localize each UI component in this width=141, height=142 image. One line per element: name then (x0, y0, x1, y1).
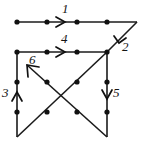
vertex-dot (44, 49, 49, 54)
diagram-canvas: 1 2 3 4 5 6 (0, 0, 141, 142)
vertex-dot (44, 109, 49, 114)
graph-svg (0, 0, 141, 142)
vertex-dot (104, 19, 109, 24)
edge-label-5: 5 (113, 86, 120, 99)
edge-6-line (27, 65, 107, 137)
edge-label-2: 2 (122, 40, 129, 53)
vertex-dot (104, 79, 109, 84)
vertex-dot (74, 19, 79, 24)
edge-label-3: 3 (2, 86, 9, 99)
vertex-dot (14, 109, 19, 114)
vertex-dot (104, 109, 109, 114)
vertex-dot (14, 49, 19, 54)
vertex-dot (74, 49, 79, 54)
edge-label-4: 4 (61, 32, 68, 45)
vertex-dot (44, 79, 49, 84)
vertex-dot (44, 19, 49, 24)
vertex-dot (74, 109, 79, 114)
vertex-dot (14, 19, 19, 24)
edge-label-6: 6 (29, 53, 36, 66)
vertex-dot (14, 79, 19, 84)
vertex-dot (74, 79, 79, 84)
edge-label-1: 1 (62, 2, 69, 15)
vertex-dot (104, 49, 109, 54)
